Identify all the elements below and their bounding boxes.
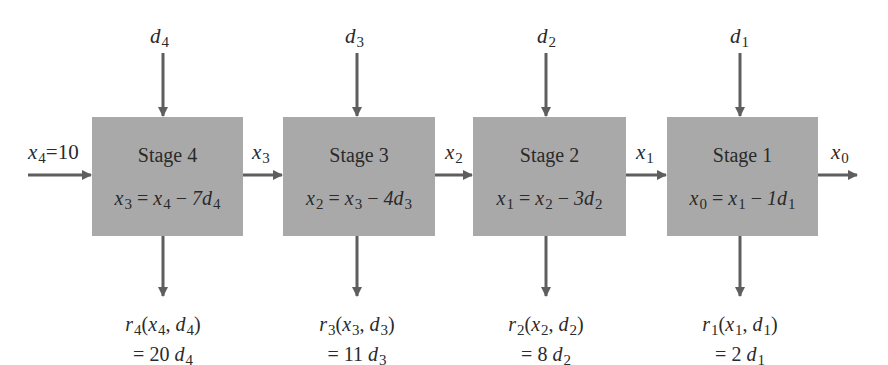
sub: 3 (124, 196, 132, 212)
d: d (202, 187, 212, 209)
sub: 2 (549, 34, 557, 50)
return-function: r1(x1, d1) (680, 312, 800, 342)
stage-title: Stage 4 (92, 144, 243, 167)
arg: x (342, 313, 351, 335)
sub: 4 (38, 150, 46, 166)
value: = 8 (521, 343, 552, 365)
arg: x (725, 313, 734, 335)
stage-equation: x3 = x4 − 7d4 (92, 187, 243, 213)
sub: 1 (764, 322, 772, 338)
var: d (150, 24, 161, 48)
arg: x (531, 313, 540, 335)
return-label-r1: r1(x1, d1) = 2 d1 (680, 312, 800, 365)
sub: 4 (213, 196, 221, 212)
return-label-r2: r2(x2, d2) = 8 d2 (486, 312, 606, 365)
sub: 4 (185, 352, 193, 365)
final-state-label-x0: x0 (831, 140, 849, 167)
sub: 1 (506, 196, 514, 212)
stage-title: Stage 3 (283, 144, 435, 167)
sub: 3 (379, 352, 387, 365)
sub: 1 (646, 150, 654, 166)
sub: 1 (742, 34, 750, 50)
stage-title: Stage 2 (473, 144, 626, 167)
sub: 1 (735, 322, 743, 338)
stage-1-box: Stage 1 x0 = x1 − 1d1 (667, 117, 818, 236)
op: − (171, 187, 192, 209)
sub: 2 (563, 352, 571, 365)
var: x (831, 140, 840, 164)
sub: 3 (262, 150, 270, 166)
arg: d (176, 313, 186, 335)
sub: 2 (517, 322, 525, 338)
decision-label-d1: d1 (730, 24, 749, 51)
var: x (636, 140, 645, 164)
stage-equation: x2 = x3 − 4d3 (283, 187, 435, 213)
return-function: r3(x3, d3) (297, 312, 417, 342)
arg: x (148, 313, 157, 335)
d: d (393, 187, 403, 209)
decision-label-d3: d3 (345, 24, 364, 51)
return-function: r4(x4, d4) (103, 312, 223, 342)
op: − (362, 187, 383, 209)
decision-label-d2: d2 (537, 24, 556, 51)
coef: 1 (767, 187, 777, 209)
return-value: = 2 d1 (680, 342, 800, 365)
initial-state-label: x4=10 (28, 140, 79, 167)
var: x (445, 140, 454, 164)
lhs: x (497, 187, 506, 209)
sub: 0 (699, 196, 707, 212)
sub: 4 (134, 322, 142, 338)
coef: 4 (383, 187, 393, 209)
value: = 11 (327, 343, 368, 365)
value: = 20 (133, 343, 174, 365)
lhs: x (306, 187, 315, 209)
stage-title: Stage 1 (667, 144, 818, 167)
arg: d (559, 313, 569, 335)
d: d (584, 187, 594, 209)
d: d (777, 187, 787, 209)
decision-label-d4: d4 (150, 24, 169, 51)
stage-2-box: Stage 2 x1 = x2 − 3d2 (473, 117, 626, 236)
lhs: x (115, 187, 124, 209)
sub: 2 (595, 196, 603, 212)
sub: 4 (187, 322, 195, 338)
return-label-r4: r4(x4, d4) = 20 d4 (103, 312, 223, 365)
rhs-var: x (535, 187, 544, 209)
multistage-diagram: x4=10 d4 d3 d2 d1 x3 x2 x1 x0 Stage 4 x3… (0, 0, 888, 365)
return-function: r2(x2, d2) (486, 312, 606, 342)
sub: 3 (404, 196, 412, 212)
state-label-x2: x2 (445, 140, 463, 167)
arg: d (753, 313, 763, 335)
stage-3-box: Stage 3 x2 = x3 − 4d3 (283, 117, 435, 236)
value: = 2 (715, 343, 746, 365)
sub: 4 (158, 322, 166, 338)
value: =10 (46, 140, 79, 164)
sub: 1 (711, 322, 719, 338)
op: − (553, 187, 574, 209)
rhs-var: x (153, 187, 162, 209)
sub: 1 (757, 352, 765, 365)
stage-equation: x1 = x2 − 3d2 (473, 187, 626, 213)
var: x (28, 140, 37, 164)
var: d (345, 24, 356, 48)
rhs-var: x (728, 187, 737, 209)
var: d (537, 24, 548, 48)
var: d (730, 24, 741, 48)
sub: 1 (788, 196, 796, 212)
sub: 2 (541, 322, 549, 338)
return-value: = 20 d4 (103, 342, 223, 365)
return-label-r3: r3(x3, d3) = 11 d3 (297, 312, 417, 365)
coef: 7 (192, 187, 202, 209)
sub: 2 (545, 196, 553, 212)
return-value: = 11 d3 (297, 342, 417, 365)
sub: 2 (570, 322, 578, 338)
sub: 3 (381, 322, 389, 338)
coef: 3 (574, 187, 584, 209)
stage-4-box: Stage 4 x3 = x4 − 7d4 (92, 117, 243, 236)
op: − (746, 187, 767, 209)
sub: 0 (841, 150, 849, 166)
var: x (252, 140, 261, 164)
sub: 4 (162, 34, 170, 50)
sub: 1 (738, 196, 746, 212)
sub: 3 (352, 322, 360, 338)
